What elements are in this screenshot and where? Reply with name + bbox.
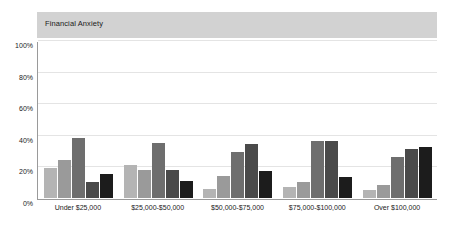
x-axis-category-label: $75,000-$100,000 — [277, 204, 357, 211]
bar[interactable] — [203, 189, 216, 198]
x-axis-category-label: $25,000-$50,000 — [118, 204, 198, 211]
plot-area — [37, 42, 437, 200]
gridline — [38, 198, 437, 199]
bar[interactable] — [325, 141, 338, 198]
bar[interactable] — [138, 170, 151, 198]
bar[interactable] — [58, 160, 71, 198]
bar[interactable] — [419, 147, 432, 198]
bar[interactable] — [363, 190, 376, 198]
y-axis-labels: 0%20%40%60%80%100% — [0, 42, 33, 200]
x-axis-labels: Under $25,000$25,000-$50,000$50,000-$75,… — [38, 204, 437, 211]
bar[interactable] — [311, 141, 324, 198]
bar[interactable] — [166, 170, 179, 198]
bar[interactable] — [217, 176, 230, 198]
bar-group — [357, 42, 437, 198]
chart-header-band: Financial Anxiety — [37, 12, 437, 38]
bar[interactable] — [339, 177, 352, 198]
x-axis-category-label: Over $100,000 — [357, 204, 437, 211]
bar[interactable] — [44, 168, 57, 198]
bar[interactable] — [245, 144, 258, 198]
bar[interactable] — [100, 174, 113, 198]
chart-title: Financial Anxiety — [45, 19, 103, 28]
bar[interactable] — [283, 187, 296, 198]
financial-anxiety-chart: Financial Anxiety 0%20%40%60%80%100% Und… — [0, 0, 449, 249]
bar[interactable] — [152, 143, 165, 198]
bar[interactable] — [231, 152, 244, 198]
bar[interactable] — [124, 165, 137, 198]
bar[interactable] — [259, 171, 272, 198]
x-axis-category-label: Under $25,000 — [38, 204, 118, 211]
bar[interactable] — [297, 182, 310, 198]
bar[interactable] — [180, 181, 193, 198]
bar-group — [119, 42, 199, 198]
bar-group — [39, 42, 119, 198]
bar-groups — [39, 42, 437, 198]
bar[interactable] — [405, 149, 418, 198]
bar[interactable] — [391, 157, 404, 198]
bar[interactable] — [72, 138, 85, 198]
bar-group — [278, 42, 358, 198]
bar[interactable] — [86, 182, 99, 198]
bar-group — [198, 42, 278, 198]
bar[interactable] — [377, 185, 390, 198]
gridline — [38, 40, 437, 41]
x-axis-category-label: $50,000-$75,000 — [198, 204, 278, 211]
